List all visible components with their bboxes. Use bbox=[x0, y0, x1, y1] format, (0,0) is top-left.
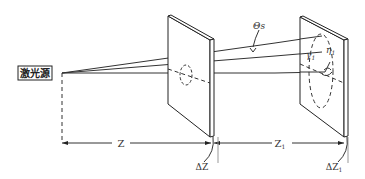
theta-leader bbox=[253, 30, 259, 47]
dz-leader bbox=[204, 137, 213, 162]
dz1-label: ΔZ1 bbox=[326, 162, 343, 173]
z-label: Z bbox=[118, 138, 125, 149]
second-screen bbox=[300, 16, 348, 137]
theta-s-label: Θs bbox=[253, 21, 265, 31]
dz-label: ΔZ bbox=[196, 162, 209, 172]
optical-diagram: 激光源 Θs γ1 η1 Z Z1 ΔZ ΔZ1 bbox=[0, 0, 365, 179]
theta-arrow bbox=[250, 48, 256, 52]
dz1-leader bbox=[338, 137, 347, 162]
laser-source-label: 激光源 bbox=[20, 67, 50, 79]
first-screen bbox=[168, 15, 214, 137]
z1-label: Z1 bbox=[275, 138, 286, 150]
